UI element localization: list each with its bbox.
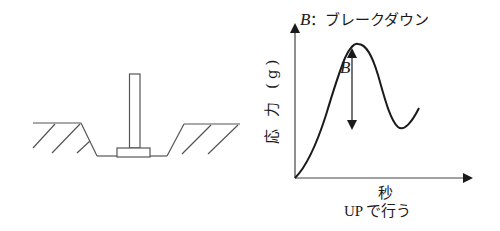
ground-right (167, 124, 240, 156)
ground-left (33, 123, 97, 156)
footing (117, 148, 150, 157)
diagram-canvas: B：ブレークダウン B 応 力 (g) 秒 UP で行う (0, 0, 500, 231)
stress-curve (295, 44, 419, 178)
title-symbol: B (300, 10, 310, 29)
diagram-svg (0, 0, 500, 231)
y-axis-label: 応 力 (g) (260, 56, 281, 145)
chart-note: UP で行う (344, 199, 411, 220)
title-text: ブレークダウン (325, 11, 429, 29)
chart-title: B：ブレークダウン (300, 8, 429, 30)
peak-marker-label: B (340, 58, 350, 78)
title-separator: ： (310, 11, 325, 29)
column (130, 74, 141, 148)
